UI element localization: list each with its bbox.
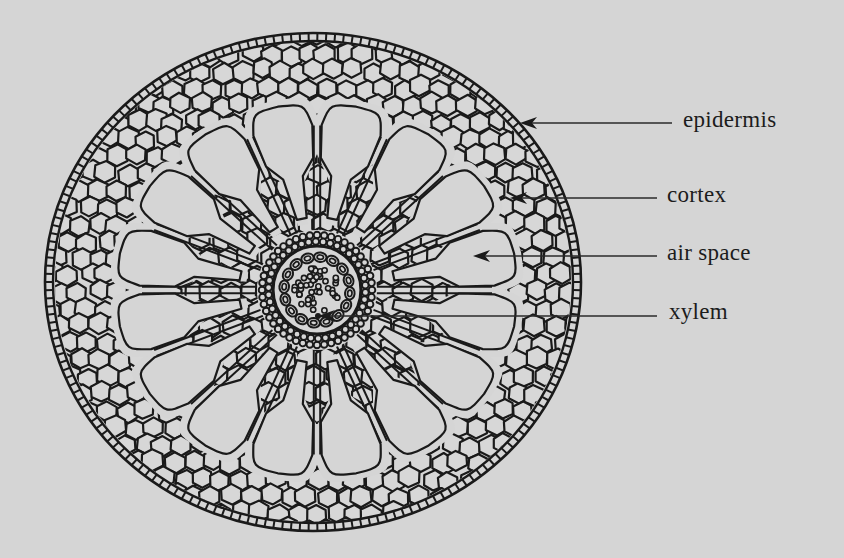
label-cortex: cortex (667, 183, 726, 206)
label-xylem: xylem (669, 300, 728, 323)
label-air-space: air space (667, 241, 751, 264)
root-cross-section-diagram (0, 0, 844, 558)
label-epidermis: epidermis (683, 108, 776, 131)
stele-xylem (257, 230, 377, 350)
